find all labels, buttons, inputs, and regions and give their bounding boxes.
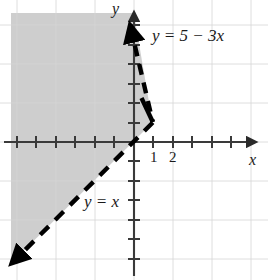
graph-canvas xyxy=(0,0,268,280)
shaded-region-fill xyxy=(11,13,153,264)
x-tick-label-2: 2 xyxy=(169,150,177,165)
y-axis-label: y xyxy=(112,1,119,17)
graph-figure: y = 5 − 3x y = x x y 1 2 xyxy=(0,0,268,280)
shaded-solution-region xyxy=(11,13,153,264)
x-axis-label: x xyxy=(249,152,256,168)
x-tick-label-1: 1 xyxy=(150,150,158,165)
line-label-y-equals-5-minus-3x: y = 5 − 3x xyxy=(152,27,224,44)
line-label-y-equals-x: y = x xyxy=(84,193,119,210)
